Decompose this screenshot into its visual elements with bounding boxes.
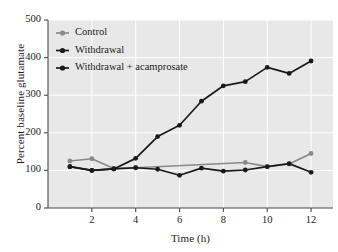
data-point — [309, 151, 314, 156]
data-point — [243, 168, 248, 173]
data-point — [243, 160, 248, 165]
legend-item-label: Control — [75, 26, 107, 37]
data-point — [199, 99, 204, 104]
data-point — [309, 170, 314, 175]
x-tick-label: 8 — [211, 214, 235, 225]
x-tick-label: 2 — [80, 214, 104, 225]
legend-marker-dot — [60, 65, 65, 70]
legend-item-label: Withdrawal — [75, 44, 124, 55]
legend-marker-dot — [60, 30, 65, 35]
chart-figure: Percent baseline glutamate Time (h) 5004… — [0, 0, 338, 252]
data-point — [309, 59, 314, 64]
x-tick-label: 12 — [299, 214, 323, 225]
legend-item-label: Withdrawal + acamprosate — [75, 61, 188, 72]
data-point — [265, 65, 270, 70]
data-point — [155, 167, 160, 172]
data-point — [155, 134, 160, 139]
data-point — [177, 173, 182, 178]
x-tick-label: 4 — [124, 214, 148, 225]
data-point — [287, 71, 292, 76]
y-tick-label: 500 — [15, 13, 41, 24]
legend-marker-dot — [60, 48, 65, 53]
data-point — [89, 168, 94, 173]
data-point — [111, 167, 116, 172]
x-tick-label: 6 — [168, 214, 192, 225]
data-point — [133, 156, 138, 161]
y-tick-label: 300 — [15, 88, 41, 99]
data-point — [68, 159, 73, 164]
data-point — [287, 161, 292, 166]
y-tick-label: 0 — [15, 201, 41, 212]
data-point — [221, 83, 226, 88]
data-point — [89, 156, 94, 161]
y-tick-label: 100 — [15, 163, 41, 174]
x-axis-title: Time (h) — [48, 232, 333, 244]
x-tick-label: 10 — [255, 214, 279, 225]
y-tick-label: 400 — [15, 51, 41, 62]
data-point — [133, 165, 138, 170]
y-tick-label: 200 — [15, 126, 41, 137]
data-point — [243, 79, 248, 84]
data-point — [265, 164, 270, 169]
data-point — [221, 169, 226, 174]
data-point — [199, 166, 204, 171]
data-point — [177, 123, 182, 128]
data-point — [68, 164, 73, 169]
